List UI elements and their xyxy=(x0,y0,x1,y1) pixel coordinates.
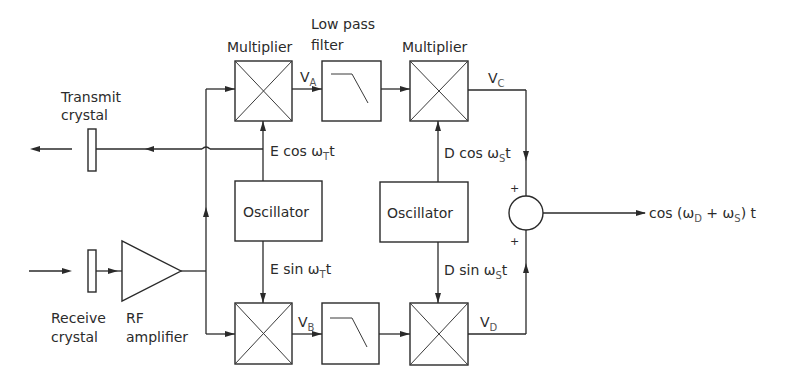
transmit-crystal-label-2: crystal xyxy=(61,107,108,123)
rf-amplifier xyxy=(122,241,181,301)
lpf-label-2: filter xyxy=(311,37,344,53)
d-cos-line xyxy=(435,121,441,182)
low-pass-filter-top xyxy=(322,61,381,121)
receive-crystal-label-1: Receive xyxy=(51,310,106,326)
vd-line xyxy=(468,230,529,334)
va-label: VA xyxy=(300,69,317,88)
oscillator-left: Oscillator xyxy=(235,181,322,241)
transmit-crystal xyxy=(88,129,96,171)
transmit-crystal-label-1: Transmit xyxy=(60,89,122,105)
vc-line xyxy=(468,90,529,196)
rf-amplifier-label-2: amplifier xyxy=(126,329,188,345)
d-cos-label: D cos ωSt xyxy=(444,145,511,164)
lpf-top-out-line xyxy=(381,86,410,92)
e-sin-line xyxy=(260,241,266,303)
receive-crystal-label-2: crystal xyxy=(51,329,98,345)
oscillator-right-label: Oscillator xyxy=(387,205,453,221)
e-cos-label: E cos ωTt xyxy=(270,143,335,162)
transmit-output-arrow xyxy=(30,146,72,152)
e-sin-label: E sin ωTt xyxy=(270,261,332,280)
transmit-feed-line xyxy=(96,146,263,152)
receive-crystal xyxy=(88,250,96,292)
summer-plus-bottom: + xyxy=(510,235,519,248)
summing-junction xyxy=(509,196,543,230)
summer-plus-top: + xyxy=(510,182,519,195)
output-line xyxy=(543,210,646,216)
receive-input-arrow xyxy=(29,268,72,274)
multiplier-top-left xyxy=(235,61,292,121)
oscillator-right: Oscillator xyxy=(380,182,468,242)
block-diagram: Transmit crystal Receive crystal RF ampl… xyxy=(0,0,789,385)
va-line xyxy=(292,86,322,92)
vb-label: VB xyxy=(298,314,315,333)
vd-label: VD xyxy=(480,314,498,333)
multiplier-top-right xyxy=(410,61,468,121)
multiplier-bottom-left xyxy=(235,303,292,364)
d-sin-line xyxy=(435,242,441,303)
low-pass-filter-bottom xyxy=(322,303,379,364)
rf-bus-line xyxy=(181,86,235,337)
e-cos-line xyxy=(260,121,266,181)
lpf-label-1: Low pass xyxy=(311,16,375,32)
receive-to-amp-line xyxy=(96,268,122,274)
d-sin-label: D sin ωSt xyxy=(444,262,508,281)
output-label: cos (ωD + ωS) t xyxy=(649,205,757,224)
vc-label: VC xyxy=(488,70,505,89)
lpf-bottom-out-line xyxy=(379,331,410,337)
multiplier-top-left-label: Multiplier xyxy=(227,39,293,55)
multiplier-top-right-label: Multiplier xyxy=(402,39,468,55)
oscillator-left-label: Oscillator xyxy=(243,204,309,220)
rf-amplifier-label-1: RF xyxy=(126,310,144,326)
multiplier-bottom-right xyxy=(410,303,468,365)
